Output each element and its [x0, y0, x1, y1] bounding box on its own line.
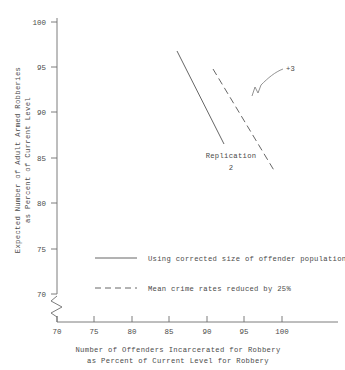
y-axis-title-line2: as Percent of Current Level: [24, 97, 32, 223]
annotation-replication-line1: Replication: [206, 152, 257, 160]
y-tick-label-95: 95: [37, 64, 47, 72]
chart-canvas: 100 95 90 85 80 75 70 70 75 80 85 90 95 …: [0, 0, 345, 370]
x-tick-label-95: 95: [239, 328, 249, 336]
x-axis-title: Number of Offenders Incarcerated for Rob…: [75, 346, 281, 365]
legend-item-corrected-offender-population: Using corrected size of offender populat…: [95, 255, 345, 263]
y-tick-label-100: 100: [32, 19, 46, 27]
y-axis: [51, 18, 62, 322]
x-tick-labels: 70 75 80 85 90 95 100: [52, 328, 289, 336]
x-tick-label-75: 75: [89, 328, 99, 336]
y-tick-marks: [51, 22, 57, 294]
plus-three-zigzag-marker: [252, 85, 261, 96]
plus-three-leader-line: [261, 69, 283, 85]
annotation-replication: Replication 2: [206, 152, 257, 172]
x-axis-title-line1: Number of Offenders Incarcerated for Rob…: [75, 346, 281, 354]
x-axis-title-line2: as Percent of Current Level for Robbery: [87, 357, 269, 365]
x-tick-label-80: 80: [127, 328, 137, 336]
x-tick-label-90: 90: [202, 328, 212, 336]
x-tick-label-85: 85: [164, 328, 174, 336]
annotation-plus-three-label: +3: [286, 65, 295, 73]
series-line-corrected-offender-population: [177, 51, 224, 144]
y-tick-label-75: 75: [37, 246, 47, 254]
chart-figure: 100 95 90 85 80 75 70 70 75 80 85 90 95 …: [0, 0, 345, 370]
y-tick-label-80: 80: [37, 200, 47, 208]
legend-label-solid: Using corrected size of offender populat…: [148, 255, 345, 263]
y-axis-title: Expected Number of Adult Armed Robberies…: [14, 67, 32, 254]
y-tick-label-85: 85: [37, 155, 47, 163]
y-tick-label-90: 90: [37, 109, 47, 117]
legend-item-mean-crime-rates-reduced: Mean crime rates reduced by 25%: [95, 285, 291, 293]
annotation-plus-three: +3: [252, 65, 295, 96]
y-axis-break-zigzag: [51, 296, 62, 317]
y-tick-labels: 100 95 90 85 80 75 70: [32, 19, 46, 299]
legend-label-dashed: Mean crime rates reduced by 25%: [148, 285, 291, 293]
x-tick-marks: [57, 316, 282, 322]
x-tick-label-100: 100: [275, 328, 289, 336]
x-tick-label-70: 70: [52, 328, 62, 336]
y-axis-title-line1: Expected Number of Adult Armed Robberies: [14, 67, 22, 254]
y-tick-label-70: 70: [37, 291, 47, 299]
chart-legend: Using corrected size of offender populat…: [95, 255, 345, 293]
annotation-replication-line2: 2: [229, 164, 234, 172]
